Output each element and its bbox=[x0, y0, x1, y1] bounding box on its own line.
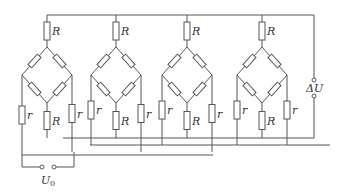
resistor-right-r-label: r bbox=[217, 108, 223, 121]
bridge-arm-bottom-right bbox=[53, 82, 66, 96]
resistor-right-r bbox=[284, 101, 290, 119]
bridge-arm-top-right bbox=[122, 54, 135, 68]
resistor-right-r bbox=[69, 105, 75, 123]
resistor-left-r-label: r bbox=[167, 104, 173, 117]
resistor-top-R bbox=[184, 22, 190, 40]
input-terminal-right bbox=[52, 165, 56, 169]
bridge-4: RRrr bbox=[234, 15, 298, 145]
resistor-bottom-R bbox=[44, 112, 50, 130]
resistor-bottom-R bbox=[184, 112, 190, 130]
resistor-left-r-label: r bbox=[242, 104, 248, 117]
resistor-left-r-label: r bbox=[27, 109, 33, 122]
resistor-left-r bbox=[19, 106, 25, 124]
circuit-diagram: ΔU RRrrRRrrRRrrRRrr U 0 bbox=[0, 0, 339, 196]
resistor-right-r-label: r bbox=[77, 108, 83, 121]
bridge-arm-top-right bbox=[193, 54, 206, 68]
bridge-1: RRrr bbox=[19, 15, 83, 155]
resistor-bottom-R bbox=[113, 112, 119, 130]
bridge-array: RRrrRRrrRRrrRRrr bbox=[19, 15, 298, 155]
bridge-arm-top-right bbox=[53, 54, 66, 68]
resistor-top-R bbox=[44, 22, 50, 40]
bridge-3: RRrr bbox=[159, 15, 223, 152]
resistor-left-r-label: r bbox=[96, 104, 102, 117]
bridge-arm-bottom-right bbox=[268, 82, 281, 96]
resistor-top-R-label: R bbox=[191, 25, 200, 38]
resistor-right-r bbox=[138, 105, 144, 123]
bridge-arm-top-left bbox=[243, 54, 256, 68]
resistor-top-R bbox=[259, 22, 265, 40]
bridge-arm-bottom-right bbox=[193, 82, 206, 96]
resistor-bottom-R-label: R bbox=[266, 115, 275, 128]
resistor-left-r bbox=[234, 101, 240, 119]
resistor-right-r-label: r bbox=[146, 108, 152, 121]
bridge-arm-top-left bbox=[168, 54, 181, 68]
bridge-arm-bottom-left bbox=[28, 82, 41, 96]
resistor-bottom-R bbox=[259, 112, 265, 130]
bridge-arm-bottom-left bbox=[243, 82, 256, 96]
input-terminal-left bbox=[40, 165, 44, 169]
bridge-arm-top-left bbox=[97, 54, 110, 68]
resistor-top-R-label: R bbox=[266, 25, 275, 38]
resistor-left-r bbox=[88, 101, 94, 119]
resistor-top-R-label: R bbox=[51, 25, 60, 38]
resistor-top-R-label: R bbox=[120, 25, 129, 38]
resistor-bottom-R-label: R bbox=[120, 115, 129, 128]
resistor-right-r bbox=[209, 105, 215, 123]
bridge-arm-top-right bbox=[268, 54, 281, 68]
resistor-top-R bbox=[113, 22, 119, 40]
resistor-bottom-R-label: R bbox=[191, 115, 200, 128]
resistor-left-r bbox=[159, 101, 165, 119]
input-label-subscript: 0 bbox=[50, 179, 55, 188]
bridge-2: RRrr bbox=[88, 15, 152, 152]
output-label: ΔU bbox=[305, 82, 324, 95]
bridge-arm-top-left bbox=[28, 54, 41, 68]
input-wire-right bbox=[56, 152, 74, 167]
bridge-arm-bottom-left bbox=[168, 82, 181, 96]
bridge-arm-bottom-left bbox=[97, 82, 110, 96]
input-wire-left bbox=[22, 155, 40, 167]
resistor-right-r-label: r bbox=[292, 104, 298, 117]
bridge-arm-bottom-right bbox=[122, 82, 135, 96]
resistor-bottom-R-label: R bbox=[51, 115, 60, 128]
